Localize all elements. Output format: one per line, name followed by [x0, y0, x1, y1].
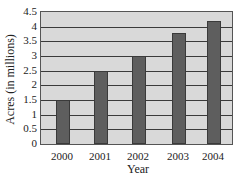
y-tick-label: 0.5 — [23, 123, 37, 134]
gridline — [41, 27, 232, 28]
bar-2001 — [94, 71, 108, 144]
y-tick-label: 4 — [32, 21, 38, 32]
x-tick-label: 2004 — [196, 150, 230, 162]
y-tick-label: 3 — [32, 50, 38, 61]
y-tick-label: 1.5 — [23, 94, 37, 105]
x-axis-label: Year — [118, 162, 158, 177]
y-tick-label: 2.5 — [23, 65, 37, 76]
y-tick-label: 3.5 — [23, 35, 37, 46]
y-tick-label: 0 — [32, 138, 38, 149]
x-tick-label: 2000 — [45, 150, 79, 162]
plot-area — [40, 11, 233, 145]
x-tick-label: 2002 — [121, 150, 155, 162]
y-tick-label: 1 — [32, 109, 38, 120]
x-tick-label: 2001 — [83, 150, 117, 162]
bar-2000 — [56, 100, 70, 144]
x-tick-label: 2003 — [161, 150, 195, 162]
y-tick-label: 4.5 — [23, 6, 37, 17]
bar-2003 — [172, 33, 186, 144]
gridline — [41, 41, 232, 42]
y-tick-label: 2 — [32, 79, 38, 90]
bar-2002 — [132, 56, 146, 144]
y-axis-label: Acres (in millions) — [3, 25, 18, 135]
bar-2004 — [207, 21, 221, 144]
